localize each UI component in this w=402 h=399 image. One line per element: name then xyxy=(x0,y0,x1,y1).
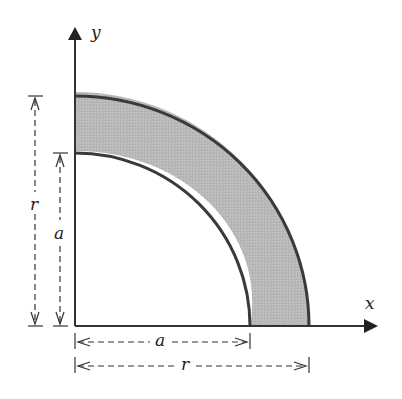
dimension-label-vertical-a: a xyxy=(54,223,64,243)
quarter-annulus-diagram: y x r a a r xyxy=(0,0,402,399)
x-axis-arrow-icon xyxy=(364,319,378,333)
dimension-horizontal-r xyxy=(75,357,309,373)
y-axis-label: y xyxy=(90,22,101,42)
dimension-label-horizontal-r: r xyxy=(181,354,190,374)
x-axis-label: x xyxy=(365,293,375,313)
y-axis-arrow-icon xyxy=(68,27,82,40)
dimension-label-horizontal-a: a xyxy=(155,330,165,350)
dimension-label-vertical-r: r xyxy=(30,194,39,214)
